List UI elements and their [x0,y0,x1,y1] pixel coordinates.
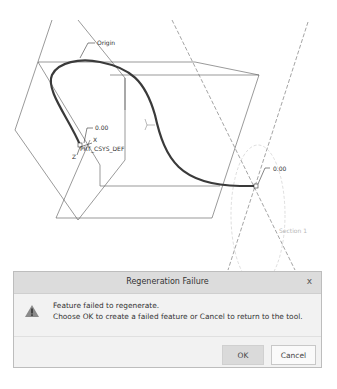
end-point[interactable] [254,184,258,188]
section-label: Section 1 [279,227,307,234]
axis-z-label: Z [72,153,76,160]
dialog-title: Regeneration Failure [14,277,321,286]
regeneration-failure-dialog: Regeneration Failure x Feature failed to… [13,271,322,368]
dimension-left[interactable]: 0.00 [95,124,108,131]
csys-label: PRT_CSYS_DEF [80,145,124,152]
dialog-titlebar[interactable]: Regeneration Failure x [14,272,321,294]
cancel-button[interactable]: Cancel [271,345,316,365]
message-line-2: Choose OK to create a failed feature or … [53,311,303,322]
dialog-message: Feature failed to regenerate. Choose OK … [53,300,303,322]
origin-label: Origin [97,39,115,46]
axis-x-label: X [93,136,97,143]
warning-icon [25,305,39,317]
dimension-right[interactable]: 0.00 [273,165,286,172]
view-triad [145,119,155,130]
datum-plane-front [15,20,259,220]
close-icon[interactable]: x [307,276,312,286]
ok-button[interactable]: OK [222,345,264,365]
message-line-1: Feature failed to regenerate. [53,300,303,311]
sketch-curve[interactable] [51,61,256,186]
divider [14,336,321,337]
